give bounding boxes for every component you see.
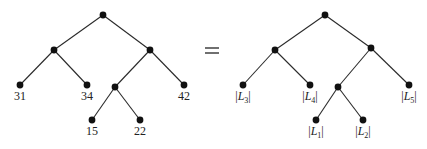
tree-edge bbox=[371, 48, 409, 85]
tree-edge bbox=[275, 50, 310, 85]
tree-edge bbox=[243, 50, 275, 85]
leaf-label: 34 bbox=[81, 89, 93, 103]
leaf-node bbox=[307, 82, 314, 89]
tree-edge bbox=[54, 50, 87, 85]
tree-edge bbox=[115, 87, 140, 120]
internal-node bbox=[51, 47, 58, 54]
internal-node bbox=[147, 47, 154, 54]
tree-edge bbox=[150, 50, 184, 85]
internal-node bbox=[112, 84, 119, 91]
leaf-label: |L1| bbox=[308, 124, 324, 140]
leaf-node bbox=[181, 82, 188, 89]
leaf-label: |L3| bbox=[235, 89, 251, 105]
internal-node bbox=[100, 12, 107, 19]
leaf-label: 42 bbox=[178, 89, 190, 103]
set-size-tree: |L3||L4||L5||L1||L2| bbox=[235, 12, 417, 140]
leaf-label: 31 bbox=[14, 89, 26, 103]
leaf-node bbox=[17, 82, 24, 89]
internal-node bbox=[368, 45, 375, 52]
leaf-node bbox=[406, 82, 413, 89]
tree-edge bbox=[316, 87, 338, 120]
tree-edge bbox=[115, 50, 150, 87]
internal-node bbox=[335, 84, 342, 91]
leaf-node bbox=[240, 82, 247, 89]
internal-node bbox=[322, 12, 329, 19]
leaf-node bbox=[313, 117, 320, 124]
leaf-label: 22 bbox=[134, 124, 146, 138]
internal-node bbox=[272, 47, 279, 54]
leaf-node bbox=[84, 82, 91, 89]
leaf-label: |L2| bbox=[355, 124, 371, 140]
leaf-node bbox=[137, 117, 144, 124]
leaf-label: 15 bbox=[86, 124, 98, 138]
tree-edge bbox=[338, 48, 371, 87]
leaf-label: |L4| bbox=[302, 89, 318, 105]
tree-edge bbox=[92, 87, 115, 120]
tree-equality-diagram: 3134421522 |L3||L4||L5||L1||L2| bbox=[0, 0, 427, 149]
tree-edge bbox=[325, 15, 371, 48]
tree-edge bbox=[54, 15, 103, 50]
tree-edge bbox=[275, 15, 325, 50]
leaf-node bbox=[360, 117, 367, 124]
tree-edge bbox=[338, 87, 363, 120]
tree-edge bbox=[20, 50, 54, 85]
numeric-tree: 3134421522 bbox=[14, 12, 190, 138]
tree-edge bbox=[103, 15, 150, 50]
equals-sign bbox=[205, 48, 219, 53]
leaf-label: |L5| bbox=[401, 89, 417, 105]
leaf-node bbox=[89, 117, 96, 124]
